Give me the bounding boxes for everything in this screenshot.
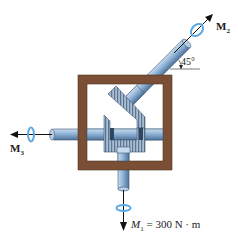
moment-arrow-m2 [174, 14, 213, 53]
label-m2-main: M [216, 20, 226, 32]
label-m1: M1 = 300 N · m [131, 218, 200, 233]
label-m3: M3 [10, 142, 24, 157]
gearbox-diagram: M2 45° M3 M1 = 300 N · m [0, 0, 238, 247]
moment-arrow-m1 [117, 190, 131, 231]
label-m1-main: M [131, 218, 140, 230]
label-m3-main: M [10, 142, 20, 154]
label-m1-equation: = 300 N · m [144, 218, 201, 230]
label-m3-sub: 3 [20, 149, 24, 157]
bevel-gear-bottom [117, 147, 130, 153]
label-m2: M2 [216, 20, 230, 35]
angle-label: 45° [181, 56, 195, 67]
moment-arrow-m3 [10, 128, 52, 142]
diagram-canvas [0, 0, 238, 247]
label-m2-sub: 2 [226, 27, 230, 35]
